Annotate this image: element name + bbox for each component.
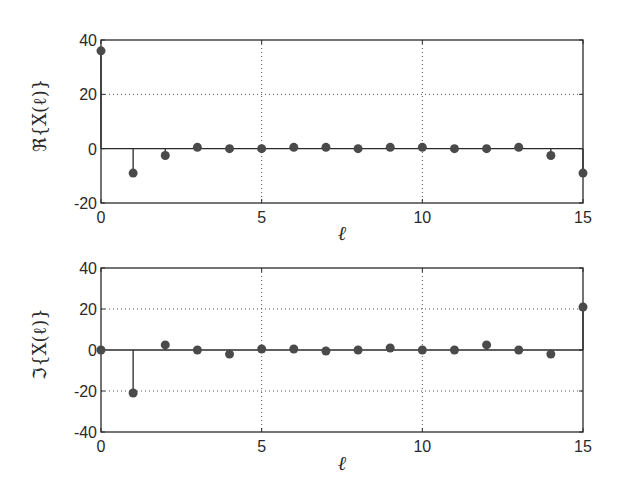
stem-marker <box>97 46 106 55</box>
real-part-plot: 051015-2002040ℓℜ{X(ℓ)} <box>29 32 592 245</box>
stem-marker <box>418 346 427 355</box>
y-tick-label: 40 <box>79 32 97 49</box>
y-tick-label: -20 <box>74 195 97 212</box>
stem-marker <box>386 343 395 352</box>
stem-marker <box>129 389 138 398</box>
imag-part-plot: 051015-40-2002040ℓℑ{X(ℓ)} <box>29 260 592 475</box>
stem-marker <box>161 151 170 160</box>
stem-marker <box>482 340 491 349</box>
y-tick-label: -20 <box>74 383 97 400</box>
stem-marker <box>514 346 523 355</box>
stem-marker <box>354 144 363 153</box>
stem-marker <box>514 143 523 152</box>
stem-marker <box>257 344 266 353</box>
stem-marker <box>418 143 427 152</box>
stem-marker <box>450 346 459 355</box>
stem-marker <box>161 340 170 349</box>
figure: 051015-2002040ℓℜ{X(ℓ)} 051015-40-2002040… <box>0 0 623 482</box>
stem-marker <box>482 144 491 153</box>
stem-marker <box>193 143 202 152</box>
stem-marker <box>354 346 363 355</box>
x-tick-label: 5 <box>257 438 266 455</box>
y-tick-label: 20 <box>79 86 97 103</box>
y-axis-label: ℑ{X(ℓ)} <box>29 308 50 379</box>
x-tick-label: 10 <box>413 438 431 455</box>
x-tick-label: 0 <box>97 209 106 226</box>
x-axis-label: ℓ <box>338 221 347 245</box>
stem-marker <box>225 144 234 153</box>
stem-marker <box>579 302 588 311</box>
x-tick-label: 5 <box>257 209 266 226</box>
stem-marker <box>225 350 234 359</box>
x-tick-label: 15 <box>574 209 592 226</box>
stem-marker <box>97 346 106 355</box>
y-tick-label: 0 <box>88 141 97 158</box>
y-axis-label: ℜ{X(ℓ)} <box>29 79 50 152</box>
x-tick-label: 15 <box>574 438 592 455</box>
y-tick-label: 0 <box>88 342 97 359</box>
axes-box <box>101 40 583 203</box>
y-tick-label: 40 <box>79 260 97 277</box>
x-axis-label: ℓ <box>338 451 347 475</box>
x-tick-label: 0 <box>97 438 106 455</box>
stem-marker <box>546 350 555 359</box>
stem-marker <box>289 143 298 152</box>
stem-marker <box>321 143 330 152</box>
x-tick-label: 10 <box>413 209 431 226</box>
stem-marker <box>129 169 138 178</box>
stem-marker <box>321 347 330 356</box>
stem-marker <box>193 346 202 355</box>
stem-marker <box>289 344 298 353</box>
stem-marker <box>450 144 459 153</box>
y-tick-label: -40 <box>74 424 97 441</box>
stem-marker <box>579 169 588 178</box>
stem-marker <box>386 143 395 152</box>
stem-marker <box>546 151 555 160</box>
y-tick-label: 20 <box>79 301 97 318</box>
stem-marker <box>257 144 266 153</box>
